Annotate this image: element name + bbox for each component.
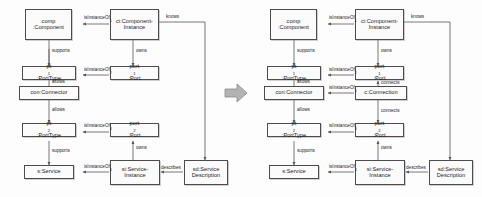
edge-label-port1-pt1: isInstanceOf2 xyxy=(84,68,112,74)
node-port1[interactable]: port1:Port xyxy=(355,66,404,80)
node-comp-line2: :Component xyxy=(278,25,309,31)
edge-label-pt1-con: allows xyxy=(297,80,310,85)
node-ci-line2: Instance xyxy=(361,25,398,31)
node-si-line2: Instance xyxy=(367,173,394,179)
edge-label-ci-sd-knows: knows xyxy=(411,15,424,20)
edge-label-pt1-con: allows xyxy=(52,80,65,85)
node-sd-line2: Description xyxy=(192,173,221,179)
diagram-before: comp :Component ci:Component- Instance p… xyxy=(0,0,237,197)
node-con-label: con:Connector xyxy=(275,90,312,96)
node-s[interactable]: s:Service xyxy=(24,165,74,179)
edge-label-sd-si: describes xyxy=(161,166,181,171)
node-s[interactable]: s:Service xyxy=(269,165,319,179)
edge-label-ci-port1: owns xyxy=(381,49,392,54)
edge-label-sd-si: describes xyxy=(406,166,426,171)
figure-root: comp :Component ci:Component- Instance p… xyxy=(0,0,482,197)
node-pt2[interactable]: pt2:PortType xyxy=(267,123,321,137)
node-port2[interactable]: port2:Port xyxy=(355,123,404,137)
edge-label-ci-port1: owns xyxy=(136,49,147,54)
node-pt1[interactable]: pt1:PortType xyxy=(267,66,321,80)
edge-label-conn-port2-connects: connects xyxy=(381,109,400,114)
edge-label-si-port2: owns xyxy=(381,146,392,151)
node-con[interactable]: con:Connector xyxy=(264,86,324,100)
node-pt2[interactable]: pt2:PortType xyxy=(22,123,76,137)
node-si[interactable]: si:Service- Instance xyxy=(355,160,405,185)
node-ci-line2: Instance xyxy=(116,25,153,31)
node-connection-label: c:Connection xyxy=(364,90,397,96)
node-port2-label: port2:Port xyxy=(373,121,385,139)
node-sd[interactable]: sd:Service Description xyxy=(184,160,228,185)
node-port1-label: port1:Port xyxy=(128,64,140,82)
diagram-after: comp :Component ci:Component- Instance p… xyxy=(245,0,482,197)
node-s-label: s:Service xyxy=(37,169,60,175)
node-comp[interactable]: comp :Component xyxy=(270,9,317,40)
node-ci[interactable]: ci:Component- Instance xyxy=(110,9,159,40)
edge-label-con-pt2: allows xyxy=(297,108,310,113)
node-con[interactable]: con:Connector xyxy=(19,86,79,100)
node-sd[interactable]: sd:Service Description xyxy=(429,160,473,185)
edge-label-ci-comp: isInstanceOf1 xyxy=(84,16,112,22)
edge-label-con-pt2: allows xyxy=(52,108,65,113)
edge-ci-sd-knows xyxy=(159,22,205,160)
node-port2-label: port2:Port xyxy=(128,121,140,139)
edge-label-port1-pt1: isInstanceOf2 xyxy=(329,68,357,74)
edge-label-port2-pt2: isInstanceOf3 xyxy=(329,124,357,130)
node-port1[interactable]: port1:Port xyxy=(110,66,159,80)
node-comp-line2: :Component xyxy=(33,25,64,31)
edge-label-si-s: isInstanceOf4 xyxy=(329,165,357,171)
edge-label-port1-connects: connects xyxy=(381,81,400,86)
edge-label-port2-pt2: isInstanceOf3 xyxy=(84,124,112,130)
node-sd-line2: Description xyxy=(437,173,466,179)
node-port2[interactable]: port2:Port xyxy=(110,123,159,137)
edge-label-si-port2: owns xyxy=(136,146,147,151)
node-si-line2: Instance xyxy=(122,173,149,179)
edge-label-ci-comp: isInstanceOf1 xyxy=(329,16,357,22)
edge-label-comp-pt1: supports xyxy=(297,49,315,54)
edge-label-pt2-s: supports xyxy=(297,149,315,154)
node-con-label: con:Connector xyxy=(30,90,67,96)
node-pt2-label: pt2:PortType xyxy=(37,121,61,139)
node-connection[interactable]: c:Connection xyxy=(355,86,407,100)
node-ci[interactable]: ci:Component- Instance xyxy=(355,9,404,40)
edge-ci-sd-knows xyxy=(404,22,450,160)
node-s-label: s:Service xyxy=(282,169,305,175)
node-pt1[interactable]: pt1:PortType xyxy=(22,66,76,80)
node-si[interactable]: si:Service- Instance xyxy=(110,160,160,185)
edge-label-pt2-s: supports xyxy=(52,149,70,154)
edge-label-ci-sd-knows: knows xyxy=(166,15,179,20)
node-pt2-label: pt2:PortType xyxy=(282,121,306,139)
edge-label-comp-pt1: supports xyxy=(52,49,70,54)
edge-label-si-s: isInstanceOf4 xyxy=(84,165,112,171)
node-comp[interactable]: comp :Component xyxy=(25,9,72,40)
edge-label-conn-con: isInstanceOf5 xyxy=(329,86,357,92)
